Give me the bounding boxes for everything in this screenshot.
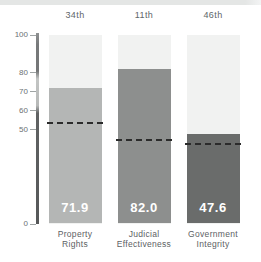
y-axis-tick [30,35,36,36]
y-axis-tick [30,110,36,111]
y-axis [36,33,39,224]
y-axis-tick-label: 60 [4,106,28,115]
bar-value-label-property-rights: 71.9 [49,200,102,214]
y-axis-tick [30,91,36,92]
reference-dash-government-integrity [185,143,241,145]
y-axis-tick-label: 0 [4,219,28,228]
category-label-government-integrity: Government Integrity [171,229,255,249]
y-axis-tick-label: 70 [4,87,28,96]
y-axis-tick-label: 50 [4,125,28,134]
reference-dash-judicial-effectiveness [116,139,172,141]
bar-value-label-government-integrity: 47.6 [187,200,240,214]
y-axis-tick [30,224,36,225]
rank-label-judicial-effectiveness: 11th [114,10,174,22]
reference-dash-property-rights [47,122,103,124]
bar-chart: 10080706050071.934thProperty Rights82.01… [0,0,261,262]
y-axis-tick-label: 100 [4,30,28,39]
y-axis-tick-label: 80 [4,68,28,77]
rank-label-government-integrity: 46th [183,10,243,22]
y-axis-tick [30,72,36,73]
bar-value-label-judicial-effectiveness: 82.0 [118,200,171,214]
index-chart-panel: 10080706050071.934thProperty Rights82.01… [0,0,261,262]
rank-label-property-rights: 34th [45,10,105,22]
y-axis-tick [30,129,36,130]
